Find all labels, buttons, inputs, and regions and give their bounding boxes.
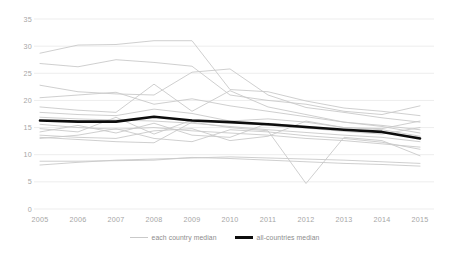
x-axis-tick-label: 2006 (58, 215, 98, 224)
x-axis-tick-label: 2012 (286, 215, 326, 224)
series-line-country-median (40, 157, 420, 166)
legend-line-swatch-icon (130, 237, 148, 238)
x-axis-tick-label: 2015 (400, 215, 440, 224)
x-axis-tick-label: 2010 (210, 215, 250, 224)
y-axis-tick-label: 30 (10, 42, 32, 51)
y-axis-tick-label: 15 (10, 123, 32, 132)
legend-thick-line-swatch-icon (235, 236, 253, 239)
x-axis-tick-label: 2008 (134, 215, 174, 224)
x-axis-tick-label: 2009 (172, 215, 212, 224)
legend-item-label: each country median (152, 234, 217, 241)
legend-item-label: all-countries median (257, 234, 320, 241)
x-axis-tick-label: 2014 (362, 215, 402, 224)
series-line-country-median (40, 69, 420, 122)
x-axis-tick-label: 2007 (96, 215, 136, 224)
legend-item-each-country-median[interactable]: each country median (130, 234, 217, 241)
y-axis-tick-label: 20 (10, 96, 32, 105)
chart-container: 05101520253035 2005200620072008200920102… (0, 0, 449, 253)
series-line-country-median (40, 41, 420, 116)
y-axis-tick-label: 5 (10, 177, 32, 186)
country-median-lines (40, 41, 420, 184)
x-axis-tick-label: 2013 (324, 215, 364, 224)
series-line-country-median (40, 60, 420, 115)
x-axis-tick-label: 2011 (248, 215, 288, 224)
y-axis-tick-label: 10 (10, 150, 32, 159)
chart-legend: each country median all-countries median (0, 234, 449, 241)
y-axis-tick-label: 35 (10, 15, 32, 24)
y-axis-tick-label: 0 (10, 205, 32, 214)
legend-item-all-countries-median[interactable]: all-countries median (235, 234, 320, 241)
x-axis-tick-label: 2005 (20, 215, 60, 224)
y-axis-tick-label: 25 (10, 69, 32, 78)
